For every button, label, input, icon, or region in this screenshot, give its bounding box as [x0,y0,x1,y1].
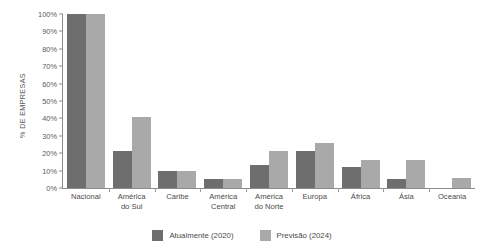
bar-current [204,179,223,188]
bar-forecast [177,171,196,188]
x-axis-category-label: África [338,192,384,202]
bar-group [387,14,425,188]
x-axis-category-label: Américado Sul [109,192,155,211]
bar-group [204,14,242,188]
y-axis-tick-mark [59,188,63,189]
y-axis-tick-mark [59,170,63,171]
bar-current [296,151,315,188]
x-axis-category-label-line2: do Sul [109,202,155,212]
chart-legend: Atualmente (2020)Previsão (2024) [0,230,484,241]
x-axis-category-label-line1: América [118,192,146,201]
x-axis-category-label: Américado Norte [246,192,292,211]
bar-group [113,14,151,188]
x-axis-category-label-line1: Europa [303,192,328,201]
legend-swatch-icon [260,230,271,241]
bar-group [433,14,471,188]
bar-forecast [223,179,242,188]
bar-group [342,14,380,188]
x-axis-category-label-line1: Ásia [399,192,414,201]
y-axis-tick-mark [59,66,63,67]
y-axis-tick-mark [59,83,63,84]
bar-group [67,14,105,188]
bar-current [67,14,86,188]
x-axis-category-label-line1: África [351,192,370,201]
bar-forecast [361,160,380,188]
bar-group [158,14,196,188]
bar-current [387,179,406,188]
legend-item[interactable]: Previsão (2024) [260,230,332,241]
y-axis-tick-mark [59,14,63,15]
y-axis-tick-mark [59,153,63,154]
bar-forecast [315,143,334,188]
y-axis-title: % DE EMPRESAS [18,36,27,176]
y-axis-tick-mark [59,48,63,49]
bar-forecast [406,160,425,188]
x-axis-category-label: Oceania [429,192,475,202]
legend-label: Previsão (2024) [277,231,332,240]
x-axis-category-label: Ásia [383,192,429,202]
x-axis-category-label-line1: Caribe [166,192,188,201]
bar-current [158,171,177,188]
x-axis-category-label-line2: do Norte [246,202,292,212]
x-axis-category-label-line1: Nacional [71,192,101,201]
bar-forecast [452,178,471,188]
bar-chart: % DE EMPRESAS 100%90%80%70%60%50%40%30%2… [0,0,484,252]
x-axis-category-label: Europa [292,192,338,202]
y-axis-tick-mark [59,118,63,119]
x-axis-category-label: Nacional [63,192,109,202]
bar-current [250,165,269,188]
x-axis-category-label-line1: América [209,192,237,201]
x-axis-category-label-line1: Oceania [438,192,466,201]
x-axis-category-label-line2: Central [200,202,246,212]
bar-forecast [86,14,105,188]
bar-current [342,167,361,188]
bar-group [250,14,288,188]
bar-forecast [269,151,288,188]
bar-current [113,151,132,188]
y-axis-tick-mark [59,135,63,136]
legend-item[interactable]: Atualmente (2020) [152,230,233,241]
legend-swatch-icon [152,230,163,241]
legend-label: Atualmente (2020) [169,231,233,240]
y-axis-tick-mark [59,101,63,102]
x-axis-category-label: Caribe [155,192,201,202]
plot-area: 100%90%80%70%60%50%40%30%20%10%0%Naciona… [62,14,475,189]
y-axis-tick-mark [59,31,63,32]
bar-group [296,14,334,188]
x-axis-category-label: AméricaCentral [200,192,246,211]
x-axis-category-label-line1: América [255,192,283,201]
bar-forecast [132,117,151,188]
